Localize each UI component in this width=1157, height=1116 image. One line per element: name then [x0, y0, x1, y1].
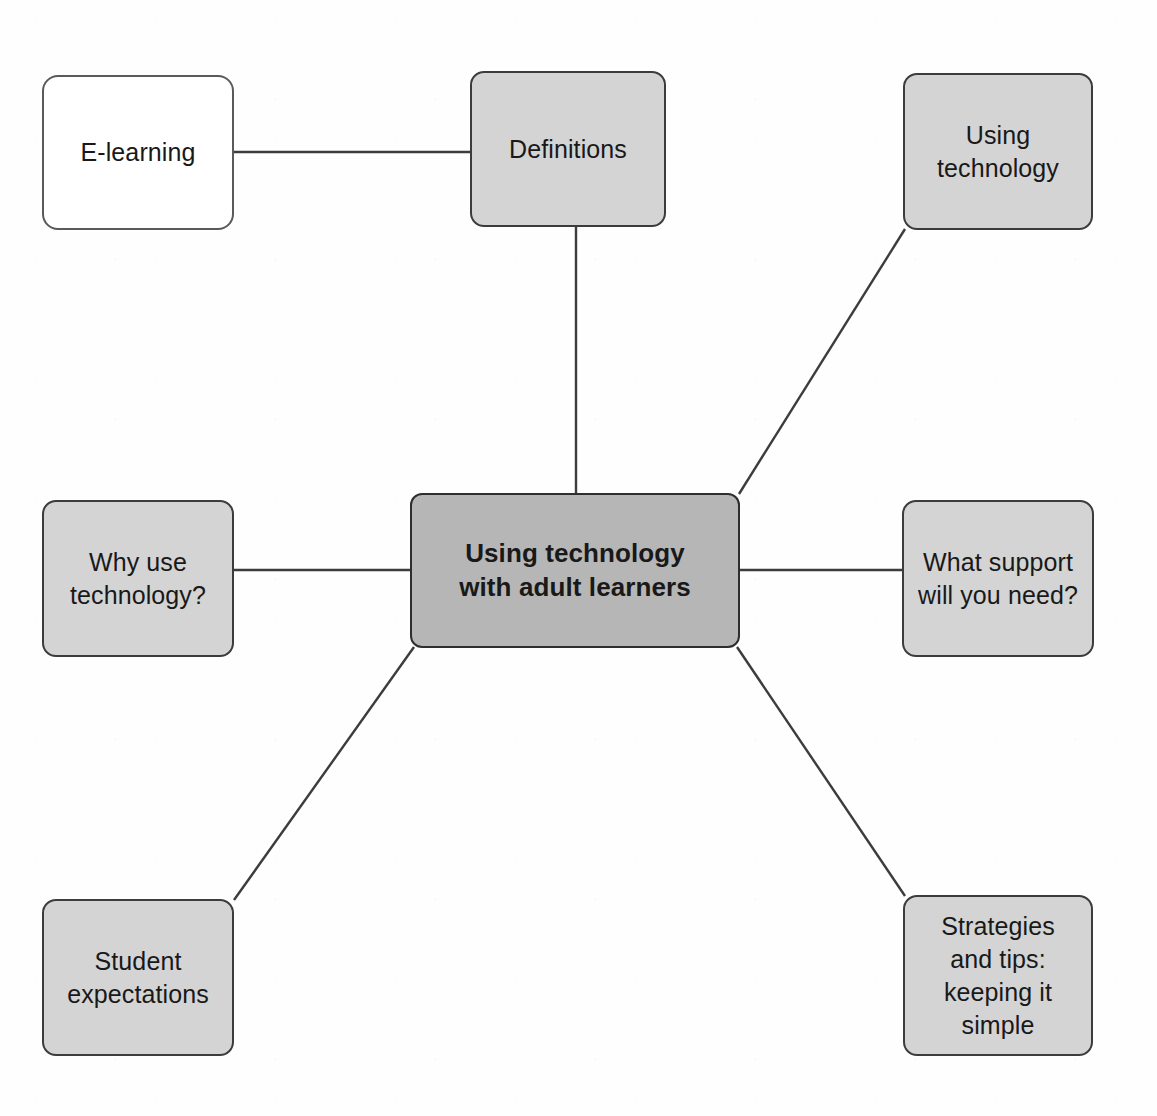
node-definitions-label: Definitions	[509, 133, 627, 166]
node-using-technology[interactable]: Using technology	[903, 73, 1093, 230]
node-what-support[interactable]: What support will you need?	[902, 500, 1094, 657]
node-student-expectations[interactable]: Student expectations	[42, 899, 234, 1056]
node-why-use-technology[interactable]: Why use technology?	[42, 500, 234, 657]
mind-map-canvas: E-learning Definitions Using technology …	[0, 0, 1157, 1116]
node-why-use-technology-label: Why use technology?	[70, 546, 206, 612]
node-definitions[interactable]: Definitions	[470, 71, 666, 227]
node-e-learning[interactable]: E-learning	[42, 75, 234, 230]
node-hub-using-technology-with-adult-learners[interactable]: Using technology with adult learners	[410, 493, 740, 648]
edge-using-technology-to-hub	[739, 229, 905, 494]
node-strategies-tips[interactable]: Strategies and tips: keeping it simple	[903, 895, 1093, 1056]
node-using-technology-label: Using technology	[937, 119, 1059, 185]
node-strategies-tips-label: Strategies and tips: keeping it simple	[941, 910, 1055, 1042]
node-hub-label: Using technology with adult learners	[459, 537, 691, 605]
node-what-support-label: What support will you need?	[918, 546, 1078, 612]
node-e-learning-label: E-learning	[81, 136, 196, 169]
edge-hub-to-student-expectations	[234, 647, 414, 900]
edge-hub-to-strategies-tips	[737, 647, 905, 896]
node-student-expectations-label: Student expectations	[67, 945, 209, 1011]
